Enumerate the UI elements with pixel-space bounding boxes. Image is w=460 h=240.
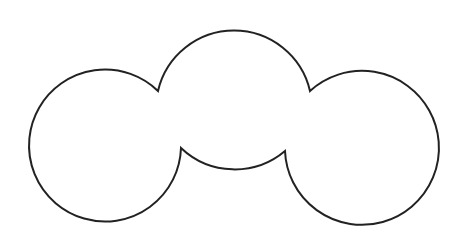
cloud-outline-shape [29,31,439,225]
cloud-diagram [0,0,460,240]
